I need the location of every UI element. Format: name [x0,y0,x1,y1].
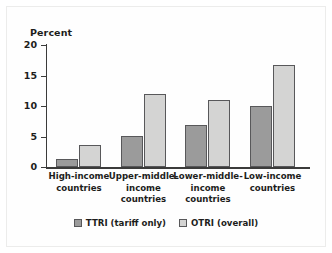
y-tick-label-text: 15 [11,71,37,81]
chart-figure: Percent 05101520 High-income countriesUp… [0,0,332,253]
bar-group [121,45,169,167]
y-tick-label: 0 [11,162,37,172]
bar [79,145,101,167]
legend-item[interactable]: OTRI (overall) [179,218,258,228]
legend-swatch-icon [74,219,82,227]
y-tick-label: 10 [11,101,37,111]
legend-item[interactable]: TTRI (tariff only) [74,218,166,228]
y-axis-title: Percent [30,27,72,38]
y-tick-label-text: 10 [11,101,37,111]
bar [56,159,78,167]
legend-label: TTRI (tariff only) [86,218,166,228]
y-tick-label-text: 20 [11,40,37,50]
bar-groups [47,45,310,167]
y-tick-mark [41,76,46,77]
bar-group [250,45,298,167]
bar [185,125,207,167]
x-axis-category-labels: High-income countriesUpper-middle-income… [47,171,310,217]
bar-group [185,45,233,167]
bar [121,136,143,167]
y-tick-mark [41,45,46,46]
category-label: Low-income countries [235,171,311,194]
bar [273,65,295,167]
y-tick-mark [41,106,46,107]
y-tick-label: 20 [11,40,37,50]
legend-label: OTRI (overall) [191,218,258,228]
y-tick-mark [41,137,46,138]
y-tick-label: 5 [11,132,37,142]
x-axis-line [46,167,310,169]
y-tick-label-text: 0 [11,162,37,172]
bar-group [56,45,104,167]
chart-legend: TTRI (tariff only)OTRI (overall) [0,218,332,228]
y-tick-label: 15 [11,71,37,81]
y-tick-mark [41,167,46,168]
legend-swatch-icon [179,219,187,227]
bar [250,106,272,167]
bar [208,100,230,167]
bar [144,94,166,167]
y-tick-label-text: 5 [11,132,37,142]
